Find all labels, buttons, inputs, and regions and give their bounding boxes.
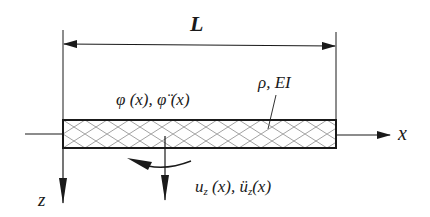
z-axis-arrowhead [59, 178, 67, 204]
material-label: ρ, EI [257, 73, 292, 92]
beam [63, 120, 336, 148]
displacement-label: uz (x), üz(x) [195, 177, 271, 197]
rotation-label: φ (x), φ̈ (x) [116, 90, 190, 109]
x-axis-label: x [397, 122, 407, 144]
length-dimension-arrow [64, 44, 335, 46]
length-label: L [189, 11, 203, 36]
beam-diagram: L φ (x), φ̈ (x) ρ, EI x z uz (x), üz(x) [0, 0, 430, 217]
displacement-arrowhead [161, 175, 169, 201]
z-axis-label: z [37, 189, 46, 210]
rotation-arc-arrowhead [127, 158, 152, 170]
rotation-arc-arrow [148, 161, 191, 167]
